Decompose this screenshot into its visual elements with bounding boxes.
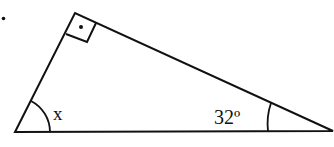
triangle-outline <box>15 13 333 132</box>
angle-32-label: 32º <box>214 106 240 128</box>
angle-arc-x <box>31 101 50 132</box>
triangle-diagram: x 32º <box>0 0 334 147</box>
bullet-dot <box>2 17 6 21</box>
angle-arc-32 <box>268 103 271 131</box>
right-angle-dot <box>79 25 83 29</box>
angle-x-label: x <box>53 103 63 124</box>
